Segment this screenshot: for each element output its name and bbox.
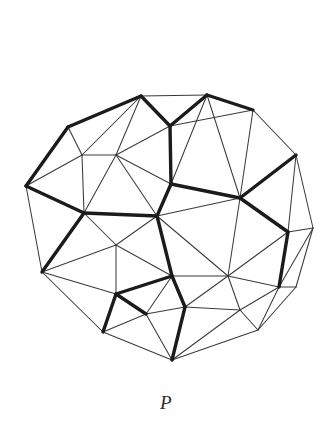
graph-edge bbox=[157, 216, 228, 276]
graph-edge-highlighted bbox=[157, 184, 171, 216]
graph-edge bbox=[116, 155, 157, 216]
graph-edge-highlighted bbox=[103, 294, 116, 332]
graph-edge-highlighted bbox=[84, 213, 157, 216]
graph-edge bbox=[84, 213, 116, 245]
graph-edge bbox=[84, 155, 116, 213]
graph-edge bbox=[116, 155, 171, 184]
graph-edge bbox=[228, 198, 240, 276]
graph-edge bbox=[26, 155, 82, 186]
graph-edge-highlighted bbox=[172, 276, 185, 307]
graph-edge bbox=[141, 95, 207, 96]
graph-edge bbox=[116, 245, 172, 276]
graph-edge bbox=[116, 216, 157, 245]
graph-edge bbox=[146, 314, 172, 360]
graph-edge-highlighted bbox=[157, 216, 172, 276]
figure-container: P bbox=[0, 0, 332, 437]
graph-edge-highlighted bbox=[42, 213, 84, 272]
figure-caption: P bbox=[0, 392, 332, 414]
graph-edge bbox=[170, 110, 253, 126]
graph-edge bbox=[185, 307, 240, 310]
graph-edge-highlighted bbox=[170, 95, 207, 126]
graph-edge-highlighted bbox=[141, 96, 170, 126]
graph-edge bbox=[26, 186, 42, 272]
graph-edge bbox=[207, 95, 240, 198]
graph-edge-highlighted bbox=[116, 294, 146, 314]
graph-edge-highlighted bbox=[171, 184, 240, 198]
graph-edge bbox=[103, 332, 172, 360]
graph-edge bbox=[172, 330, 258, 360]
graph-edge bbox=[258, 287, 296, 330]
graph-edge bbox=[296, 155, 313, 228]
graph-edge bbox=[68, 127, 82, 155]
graph-edge-highlighted bbox=[207, 95, 253, 110]
graph-edge bbox=[228, 232, 288, 276]
graph-edge-highlighted bbox=[240, 198, 288, 232]
graph-edge-highlighted bbox=[26, 186, 84, 213]
graph-edge bbox=[116, 126, 170, 155]
graph-edge bbox=[157, 198, 240, 216]
graph-edge-highlighted bbox=[240, 155, 296, 198]
graph-edge bbox=[82, 155, 84, 213]
graph-edge bbox=[240, 110, 253, 198]
graph-edge-highlighted bbox=[26, 127, 68, 186]
graph-canvas bbox=[0, 0, 332, 437]
graph-edge bbox=[228, 276, 240, 310]
graph-edge bbox=[288, 155, 296, 232]
bold-edge-layer bbox=[26, 95, 296, 360]
graph-edge bbox=[288, 228, 313, 232]
graph-edge bbox=[240, 310, 258, 330]
graph-edge-highlighted bbox=[170, 126, 171, 184]
graph-edge-highlighted bbox=[116, 276, 172, 294]
graph-edge bbox=[185, 276, 228, 307]
graph-edge bbox=[296, 228, 313, 287]
graph-edge bbox=[253, 110, 296, 155]
graph-edge bbox=[228, 276, 279, 287]
graph-edge bbox=[146, 307, 185, 314]
